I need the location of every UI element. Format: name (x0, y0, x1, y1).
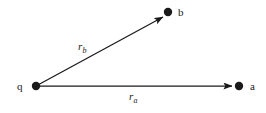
point-dot-a (235, 82, 243, 90)
point-label-b: b (178, 7, 184, 18)
point-dot-q (32, 82, 40, 90)
vector-label-rb-subscript: b (82, 46, 86, 55)
vector-label-ra: ra (129, 91, 137, 102)
point-label-a: a (250, 81, 255, 92)
vector-label-ra-subscript: a (133, 96, 137, 105)
vector-label-rb: rb (78, 41, 86, 52)
vector-diagram-figure: q b a rb ra (0, 0, 266, 113)
point-label-q: q (17, 81, 23, 92)
vector-arrow-rb (36, 17, 163, 86)
point-dot-b (164, 8, 172, 16)
